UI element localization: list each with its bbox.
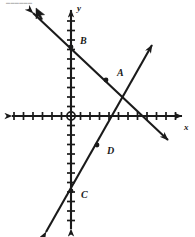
x-axis-label: x [183,122,189,132]
point-label-B: B [79,35,87,46]
coordinate-plane-figure: ▬▬▬▬▬▬ y x ABCD [0,0,195,237]
point-labels: ABCD [79,35,124,200]
point-dot-D [95,143,100,148]
x-axis [12,112,182,120]
graph-canvas: y x ABCD [0,0,195,237]
point-label-D: D [106,145,114,156]
line-AB [33,13,168,140]
y-axis-label: y [76,3,82,13]
point-dot-A [104,78,109,83]
point-dot-C [69,189,74,194]
line-CD [46,45,152,232]
point-label-C: C [81,189,88,200]
point-label-A: A [116,67,124,78]
lines-group [33,13,168,232]
point-dot-B [69,45,74,50]
